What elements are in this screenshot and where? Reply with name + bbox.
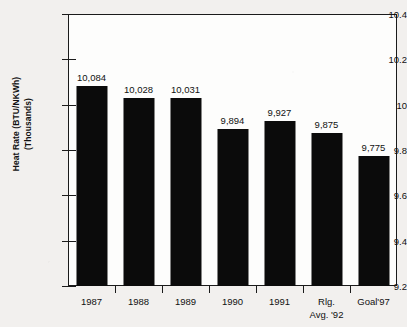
x-tick-label-line1: 1991 xyxy=(269,296,290,307)
x-tick-label-line1: 1987 xyxy=(81,296,102,307)
y-axis-title: Heat Rate (BTU/NKWh) (Thousands) xyxy=(10,59,34,189)
bars-layer: 10,08410,02810,0319,8949,9279,8759,775 xyxy=(68,14,397,286)
y-tick-mark-inner xyxy=(68,286,76,287)
bar-value-label: 10,028 xyxy=(124,84,153,95)
bar-group: 10,031 xyxy=(162,14,209,286)
bar xyxy=(170,98,201,286)
x-tick-label: 1989 xyxy=(175,295,196,308)
bar-value-label: 9,927 xyxy=(268,107,292,118)
x-tick-label: 1987 xyxy=(81,295,102,308)
bar-value-label: 10,031 xyxy=(171,84,200,95)
bar xyxy=(264,121,295,286)
bar-value-label: 10,084 xyxy=(77,72,106,83)
bar-chart: Heat Rate (BTU/NKWh) (Thousands) 10.410.… xyxy=(0,0,407,327)
bar-group: 10,084 xyxy=(68,14,115,286)
bar xyxy=(123,98,154,286)
x-tick-mark xyxy=(350,286,351,293)
x-tick-label: 1991 xyxy=(269,295,290,308)
bar-group: 10,028 xyxy=(115,14,162,286)
y-axis-title-line1: Heat Rate (BTU/NKWh) xyxy=(10,59,22,189)
x-tick-label: Rlg.Avg. '92 xyxy=(310,295,344,321)
bar xyxy=(358,156,389,286)
bar-group: 9,775 xyxy=(350,14,397,286)
bar-value-label: 9,875 xyxy=(315,119,339,130)
x-tick-label: Goal'97 xyxy=(357,295,389,308)
bar-value-label: 9,894 xyxy=(221,115,245,126)
x-tick-label-line1: Rlg. xyxy=(318,296,335,307)
bar xyxy=(311,133,342,286)
x-tick-mark xyxy=(209,286,210,293)
x-tick-label-line2: Avg. '92 xyxy=(310,308,344,321)
x-tick-label-line1: Goal'97 xyxy=(357,296,389,307)
bar-group: 9,927 xyxy=(256,14,303,286)
x-tick-mark xyxy=(303,286,304,293)
x-tick-mark xyxy=(256,286,257,293)
y-axis-title-line2: (Thousands) xyxy=(22,59,34,189)
x-tick-label-line1: 1988 xyxy=(128,296,149,307)
bar-value-label: 9,775 xyxy=(362,142,386,153)
x-tick-label-line1: 1989 xyxy=(175,296,196,307)
bar-group: 9,875 xyxy=(303,14,350,286)
x-tick-label-line1: 1990 xyxy=(222,296,243,307)
x-tick-label: 1988 xyxy=(128,295,149,308)
bar xyxy=(76,86,107,286)
bar xyxy=(217,129,248,286)
bar-group: 9,894 xyxy=(209,14,256,286)
x-tick-label: 1990 xyxy=(222,295,243,308)
x-tick-mark xyxy=(115,286,116,293)
x-tick-mark xyxy=(162,286,163,293)
